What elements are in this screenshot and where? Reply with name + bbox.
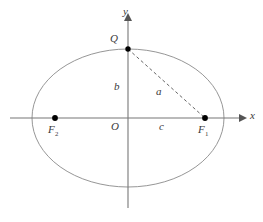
segment-label-c: c [159,121,164,132]
x-axis-arrowhead [239,114,247,122]
point-label-F1-base: F [198,123,205,135]
point-label-F1-subscript: 1 [205,130,208,137]
point-F1-marker [202,115,208,121]
point-label-F1: F1 [198,124,208,135]
point-label-F2-base: F [48,123,55,135]
y-axis-label: y [123,6,128,17]
ellipse-diagram: y x Q O b a c F1 F2 [0,0,263,222]
point-label-F2-subscript: 2 [55,130,58,137]
point-Q-marker [125,46,130,51]
point-F2-marker [52,115,58,121]
segment-label-a: a [156,86,162,97]
x-axis-label: x [250,110,255,121]
point-label-Q: Q [110,33,118,44]
segment-a-dashed [128,49,205,118]
segment-label-b: b [114,81,120,92]
diagram-canvas [0,0,263,222]
origin-label: O [111,121,119,132]
point-label-F2: F2 [48,124,58,135]
